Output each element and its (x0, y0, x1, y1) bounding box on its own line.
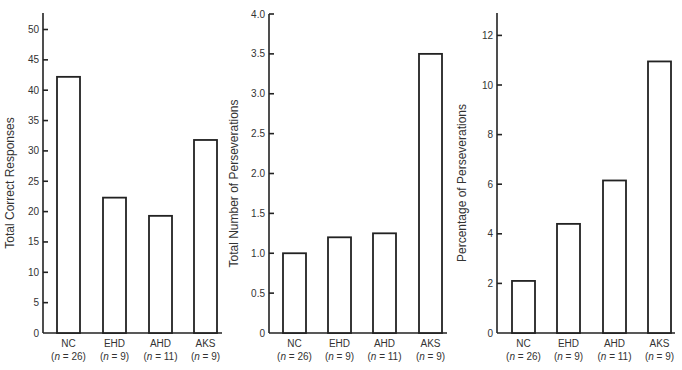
x-tick-label: AHD (604, 338, 625, 349)
x-tick-label: NC (61, 338, 75, 349)
bar-ehd (328, 237, 351, 333)
x-tick-label: EHD (558, 338, 579, 349)
sample-size-label: (n = 9) (325, 351, 354, 362)
y-tick-label: 45 (28, 54, 40, 65)
x-tick-label: NC (287, 338, 301, 349)
y-tick-label: 30 (28, 145, 40, 156)
x-tick-label: AKS (195, 338, 215, 349)
y-tick-label: 50 (28, 24, 40, 35)
bar-aks (419, 54, 442, 333)
x-tick-label: AKS (420, 338, 440, 349)
y-tick-label: 2.5 (251, 128, 265, 139)
y-tick-label: 3.5 (251, 48, 265, 59)
bar-aks (648, 61, 671, 333)
sample-size-label: (n = 11) (143, 351, 177, 362)
y-tick-label: 35 (28, 115, 40, 126)
y-tick-label: 3.0 (251, 88, 265, 99)
y-axis-title: Percentage of Perseverations (455, 104, 469, 262)
sample-size-label: (n = 9) (554, 351, 583, 362)
bar-ahd (603, 180, 626, 333)
chart-figure: 05101520253035404550Total Correct Respon… (0, 0, 682, 370)
x-tick-label: EHD (104, 338, 125, 349)
sample-size-label: (n = 9) (645, 351, 674, 362)
y-tick-label: 1.5 (251, 208, 265, 219)
y-tick-label: 15 (28, 236, 40, 247)
sample-size-label: (n = 9) (191, 351, 220, 362)
x-tick-label: AHD (374, 338, 395, 349)
y-tick-label: 5 (33, 297, 39, 308)
y-tick-label: 8 (487, 129, 493, 140)
bar-ehd (557, 224, 580, 333)
y-tick-label: 20 (28, 206, 40, 217)
sample-size-label: (n = 9) (100, 351, 129, 362)
y-tick-label: 0 (259, 328, 265, 339)
y-tick-label: 1.0 (251, 248, 265, 259)
chart-panel-2: 00.51.01.52.02.53.03.54.0Total Number of… (227, 9, 447, 363)
bar-nc (57, 77, 80, 333)
x-tick-label: AHD (150, 338, 171, 349)
chart-panel-1: 05101520253035404550Total Correct Respon… (3, 13, 222, 362)
y-tick-label: 10 (482, 80, 494, 91)
y-tick-label: 2 (487, 278, 493, 289)
y-tick-label: 6 (487, 179, 493, 190)
sample-size-label: (n = 11) (597, 351, 631, 362)
sample-size-label: (n = 26) (51, 351, 86, 362)
bar-nc (283, 253, 306, 333)
chart-panel-3: 024681012Percentage of PerseverationsNC(… (455, 13, 675, 362)
y-axis-title: Total Number of Perseverations (227, 99, 241, 267)
bar-ehd (103, 198, 126, 333)
y-tick-label: 40 (28, 85, 40, 96)
bar-ahd (149, 216, 172, 333)
x-tick-label: AKS (649, 338, 669, 349)
y-tick-label: 0 (487, 328, 493, 339)
bar-aks (194, 140, 217, 333)
y-tick-label: 25 (28, 176, 40, 187)
y-tick-label: 2.0 (251, 168, 265, 179)
y-axis-title: Total Correct Responses (3, 117, 17, 248)
bar-nc (512, 281, 535, 333)
y-tick-label: 4.0 (251, 9, 265, 20)
y-tick-label: 12 (482, 30, 494, 41)
sample-size-label: (n = 9) (416, 351, 445, 362)
bar-ahd (373, 233, 396, 333)
y-tick-label: 0.5 (251, 288, 265, 299)
sample-size-label: (n = 26) (277, 351, 312, 362)
x-tick-label: NC (516, 338, 530, 349)
x-tick-label: EHD (329, 338, 350, 349)
sample-size-label: (n = 11) (367, 351, 401, 362)
y-tick-label: 0 (33, 328, 39, 339)
y-tick-label: 4 (487, 228, 493, 239)
y-tick-label: 10 (28, 267, 40, 278)
sample-size-label: (n = 26) (506, 351, 541, 362)
